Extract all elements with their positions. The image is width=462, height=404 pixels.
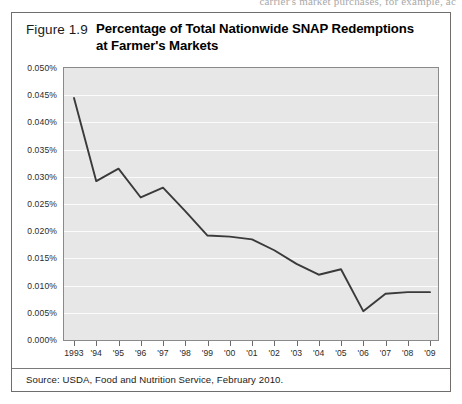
y-axis-tick-label: 0.015%: [27, 253, 57, 263]
x-axis-tick: [141, 341, 142, 346]
chart-area: 0.050%0.045%0.040%0.035%0.030%0.025%0.02…: [12, 65, 452, 365]
page-bleed-text: carrier's market purchases, for example,…: [0, 0, 462, 7]
figure-header: Figure 1.9 Percentage of Total Nationwid…: [12, 19, 450, 65]
x-axis-tick-label: '06: [358, 348, 370, 358]
x-axis-tick: [341, 341, 342, 346]
x-axis: 1993'94'95'96'97'98'99'00'01'02'03'04'05…: [63, 341, 439, 365]
y-axis-tick-label: 0.020%: [27, 226, 57, 236]
x-axis-tick-label: '08: [402, 348, 414, 358]
x-axis-tick-label: '99: [202, 348, 214, 358]
x-axis-tick-label: '98: [180, 348, 192, 358]
x-axis-tick: [96, 341, 97, 346]
figure-title-line1: Percentage of Total Nationwide SNAP Rede…: [96, 21, 414, 36]
x-axis-tick: [230, 341, 231, 346]
y-axis-tick-label: 0.005%: [27, 308, 57, 318]
figure-title: Percentage of Total Nationwide SNAP Rede…: [96, 21, 440, 54]
y-axis-tick-label: 0.040%: [27, 117, 57, 127]
x-axis-tick-label: '00: [224, 348, 236, 358]
x-axis-tick: [74, 341, 75, 346]
y-axis-tick-label: 0.025%: [27, 199, 57, 209]
x-axis-tick: [119, 341, 120, 346]
y-axis-labels: 0.050%0.045%0.040%0.035%0.030%0.025%0.02…: [12, 65, 62, 343]
x-axis-tick-label: '95: [113, 348, 125, 358]
x-axis-tick-label: '02: [269, 348, 281, 358]
x-axis-tick-label: '96: [135, 348, 147, 358]
x-axis-tick-label: '94: [91, 348, 103, 358]
x-axis-tick: [430, 341, 431, 346]
y-axis-tick-label: 0.010%: [27, 281, 57, 291]
figure-title-line2: at Farmer's Markets: [96, 38, 440, 55]
series-line: [64, 68, 438, 340]
y-axis-tick-label: 0.050%: [27, 63, 57, 73]
x-axis-tick: [252, 341, 253, 346]
x-axis-tick: [297, 341, 298, 346]
source-note: Source: USDA, Food and Nutrition Service…: [26, 374, 283, 385]
x-axis-tick-label: 1993: [64, 348, 84, 358]
plot-area: [63, 67, 439, 341]
source-divider: [12, 368, 450, 369]
figure-page: carrier's market purchases, for example,…: [0, 0, 462, 404]
figure-box: Figure 1.9 Percentage of Total Nationwid…: [11, 12, 451, 392]
x-axis-tick-label: '07: [380, 348, 392, 358]
y-axis-tick-label: 0.035%: [27, 145, 57, 155]
x-axis-tick: [319, 341, 320, 346]
y-axis-tick-label: 0.030%: [27, 172, 57, 182]
x-axis-tick: [163, 341, 164, 346]
x-axis-tick: [363, 341, 364, 346]
x-axis-tick-label: '03: [291, 348, 303, 358]
x-axis-tick-label: '04: [313, 348, 325, 358]
x-axis-tick: [274, 341, 275, 346]
x-axis-tick: [185, 341, 186, 346]
x-axis-tick: [208, 341, 209, 346]
x-axis-tick: [408, 341, 409, 346]
y-axis-tick-label: 0.045%: [27, 90, 57, 100]
x-axis-tick-label: '09: [424, 348, 436, 358]
x-axis-tick: [386, 341, 387, 346]
y-axis-tick-label: 0.000%: [27, 335, 57, 345]
x-axis-tick-label: '01: [246, 348, 258, 358]
figure-number: Figure 1.9: [26, 22, 88, 37]
x-axis-tick-label: '97: [157, 348, 169, 358]
x-axis-tick-label: '05: [335, 348, 347, 358]
